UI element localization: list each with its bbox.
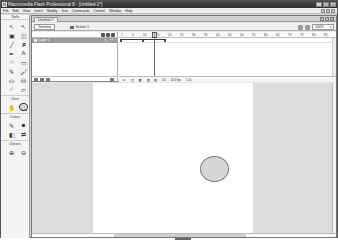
stage-vertical-scrollbar[interactable] — [332, 83, 336, 233]
onion-outlines-icon[interactable]: ◧ — [139, 78, 142, 82]
add-guide-layer-icon[interactable] — [40, 78, 44, 82]
keyframe[interactable] — [120, 40, 122, 42]
layer-state-icons: • • ▫ — [110, 38, 115, 43]
insert-layer-icon[interactable] — [34, 78, 38, 82]
stage[interactable] — [93, 83, 253, 233]
tools-panel: Tools ↖ ↖ ▣ ◫ ╱ ᑭ ✒ A ○ ▭ ✎ 🖌 ⛀ ⛁ ⁄ ▱ Vi… — [1, 15, 30, 238]
menu-window[interactable]: Window — [109, 8, 121, 13]
doc-restore-button[interactable] — [326, 9, 330, 13]
layer-name: Layer 1 — [38, 38, 50, 42]
document-window: Untitled-1* Timeline Scene 1 100% ▾ — [31, 15, 337, 238]
black-white-icon[interactable]: ◧ — [7, 130, 16, 138]
panel-resize-grip[interactable] — [175, 238, 191, 240]
enlarge-icon[interactable]: ⊕ — [7, 148, 16, 156]
window-title: Macromedia Flash Professional 8 - [Untit… — [8, 2, 102, 7]
docwin-maximize-button[interactable] — [325, 17, 329, 21]
timeline-status-bar: ⊡ ◫ ◧ ▥ ▤ 14 12.0 fps 1.1s — [119, 76, 336, 82]
edit-multiple-icon[interactable]: ▥ — [147, 78, 150, 82]
docwin-minimize-button[interactable] — [320, 17, 324, 21]
selection-tool-icon[interactable]: ↖ — [7, 22, 16, 30]
menu-control[interactable]: Control — [94, 8, 105, 13]
zoom-value: 100% — [315, 25, 324, 29]
edit-scene-icon[interactable] — [298, 25, 303, 30]
frames-area[interactable]: 1 5 10 15 20 25 30 35 40 45 50 55 60 65 … — [119, 32, 336, 82]
oval-tool-icon[interactable]: ○ — [7, 58, 16, 66]
menu-modify[interactable]: Modify — [47, 8, 57, 13]
keyframe[interactable] — [142, 40, 144, 42]
ink-bottle-tool-icon[interactable]: ⛀ — [7, 76, 16, 84]
scene-breadcrumb[interactable]: Scene 1 — [70, 24, 89, 30]
minimize-button[interactable]: _ — [316, 2, 322, 7]
fill-color-icon[interactable]: ■ — [19, 121, 28, 129]
title-bar: Macromedia Flash Professional 8 - [Untit… — [1, 1, 337, 8]
zoom-dropdown[interactable]: 100% ▾ — [312, 24, 334, 30]
frame-rate: 12.0 fps — [170, 78, 181, 82]
layer-icon — [34, 39, 37, 42]
doc-minimize-button[interactable] — [321, 9, 325, 13]
lasso-tool-icon[interactable]: ᑭ — [19, 40, 28, 48]
outline-icon[interactable] — [111, 33, 115, 37]
playhead[interactable] — [152, 32, 157, 38]
oval-shape[interactable] — [200, 156, 229, 182]
layer-1-frames[interactable] — [119, 38, 336, 43]
menu-text[interactable]: Text — [61, 8, 67, 13]
flash-app-window: Macromedia Flash Professional 8 - [Untit… — [0, 0, 338, 238]
text-tool-icon[interactable]: A — [19, 49, 28, 57]
eraser-tool-icon[interactable]: ▱ — [19, 85, 28, 93]
stroke-color-icon[interactable]: ✎ — [7, 121, 16, 129]
pen-tool-icon[interactable]: ✒ — [7, 49, 16, 57]
insert-folder-icon[interactable] — [46, 78, 50, 82]
layer-controls — [32, 76, 118, 82]
scene-icon — [70, 26, 74, 29]
layers-column: Layer 1 ✎ • • ▫ — [32, 32, 118, 82]
onion-markers-icon[interactable]: ▤ — [154, 78, 157, 82]
pasteboard[interactable] — [32, 83, 336, 237]
zoom-tool-icon[interactable]: 🔍 — [19, 103, 28, 111]
document-tabs: Untitled-1* — [32, 16, 336, 22]
current-frame: 14 — [162, 78, 165, 82]
menu-bar: File Edit View Insert Modify Text Comman… — [1, 8, 337, 14]
subselection-tool-icon[interactable]: ↖ — [19, 22, 28, 30]
tween-span — [120, 39, 166, 42]
maximize-button[interactable]: □ — [323, 2, 329, 7]
edit-bar: Timeline Scene 1 100% ▾ — [32, 23, 336, 31]
eyedropper-tool-icon[interactable]: ⁄ — [7, 85, 16, 93]
menu-help[interactable]: Help — [125, 8, 132, 13]
timeline-panel: Layer 1 ✎ • • ▫ 1 5 10 15 20 — [32, 32, 336, 82]
keyframe[interactable] — [164, 40, 166, 42]
menu-file[interactable]: File — [3, 8, 9, 13]
pencil-tool-icon[interactable]: ✎ — [7, 67, 16, 75]
reduce-icon[interactable]: ⊖ — [19, 148, 28, 156]
collapsed-properties-panel — [0, 238, 338, 250]
swap-colors-icon[interactable]: ⇄ — [19, 130, 28, 138]
timeline-toggle-button[interactable]: Timeline — [34, 24, 55, 30]
rectangle-tool-icon[interactable]: ▭ — [19, 58, 28, 66]
document-tab[interactable]: Untitled-1* — [34, 17, 58, 22]
layer-row[interactable]: Layer 1 ✎ • • ▫ — [32, 38, 117, 43]
menu-view[interactable]: View — [23, 8, 31, 13]
paint-bucket-tool-icon[interactable]: ⛁ — [19, 76, 28, 84]
line-tool-icon[interactable]: ╱ — [7, 40, 16, 48]
fill-transform-tool-icon[interactable]: ◫ — [19, 31, 28, 39]
scrollbar-thumb[interactable] — [114, 234, 246, 237]
close-button[interactable]: x — [330, 2, 336, 7]
lock-icon[interactable] — [106, 33, 110, 37]
edit-symbols-icon[interactable] — [305, 25, 310, 30]
menu-insert[interactable]: Insert — [34, 8, 43, 13]
free-transform-tool-icon[interactable]: ▣ — [7, 31, 16, 39]
menu-edit[interactable]: Edit — [13, 8, 19, 13]
hand-tool-icon[interactable]: ✋ — [7, 103, 16, 111]
scene-name: Scene 1 — [76, 25, 89, 29]
pencil-icon: ✎ — [104, 38, 107, 43]
eye-icon[interactable] — [101, 33, 105, 37]
doc-close-button[interactable] — [331, 9, 335, 13]
playhead-line — [154, 32, 155, 82]
onion-skin-icon[interactable]: ◫ — [131, 78, 134, 82]
brush-tool-icon[interactable]: 🖌 — [19, 67, 28, 75]
stage-horizontal-scrollbar[interactable] — [32, 233, 336, 237]
timeline-vertical-scrollbar[interactable] — [332, 38, 336, 76]
trash-icon[interactable] — [110, 78, 114, 82]
docwin-close-button[interactable] — [330, 17, 334, 21]
menu-commands[interactable]: Commands — [72, 8, 90, 13]
center-frame-icon[interactable]: ⊡ — [123, 78, 126, 82]
